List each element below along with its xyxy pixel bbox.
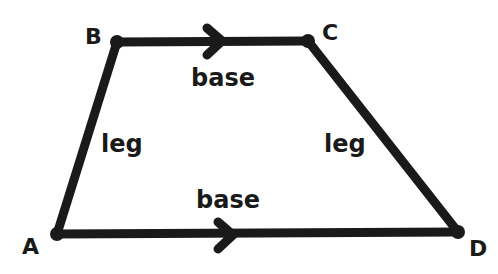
bottom-base-label: base — [196, 186, 260, 214]
vertex-c-dot — [301, 34, 315, 48]
side-bc-top-base — [117, 41, 308, 42]
vertex-b-dot — [110, 35, 124, 49]
vertex-label-c: C — [322, 20, 338, 45]
right-leg-label: leg — [324, 130, 366, 158]
vertex-label-b: B — [85, 24, 102, 49]
vertex-label-a: A — [22, 234, 39, 259]
vertex-a-dot — [50, 227, 64, 241]
vertex-label-d: D — [469, 236, 487, 261]
trapezoid-diagram: B C A D base base leg leg — [0, 0, 498, 274]
side-ad-bottom-base — [57, 232, 458, 234]
vertex-d-dot — [451, 225, 465, 239]
left-leg-label: leg — [101, 130, 143, 158]
top-base-label: base — [191, 64, 255, 92]
